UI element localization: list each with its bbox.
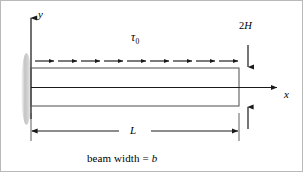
figure-canvas: y x τ0 2H L beam width = b: [0, 0, 303, 172]
shear-traction-label: τ0: [131, 32, 139, 44]
length-dimension-label: L: [130, 125, 136, 136]
beam-diagram-svg: [1, 1, 303, 172]
y-axis-label: y: [38, 9, 43, 20]
fixed-support-shading: [21, 53, 32, 125]
figure-caption: beam width = b: [87, 153, 157, 164]
height-dimension-label: 2H: [239, 21, 252, 32]
caption-symbol: b: [152, 152, 158, 164]
height-symbol: H: [244, 20, 252, 31]
caption-text: beam width =: [87, 152, 152, 164]
tau-subscript: 0: [135, 37, 139, 46]
x-axis-label: x: [284, 89, 289, 100]
